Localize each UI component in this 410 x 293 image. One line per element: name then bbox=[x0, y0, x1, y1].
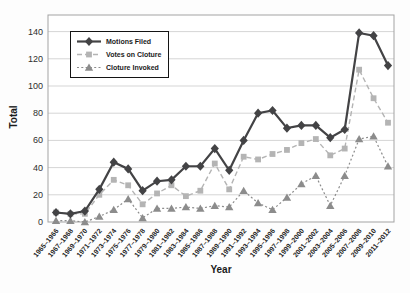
svg-text:120: 120 bbox=[28, 54, 43, 64]
square-marker-icon bbox=[76, 49, 102, 60]
legend: Motions Filed Votes on Cloture Cloture I… bbox=[70, 31, 169, 78]
svg-text:0: 0 bbox=[38, 217, 43, 227]
svg-text:60: 60 bbox=[33, 135, 43, 145]
svg-text:100: 100 bbox=[28, 81, 43, 91]
diamond-marker-icon bbox=[76, 36, 102, 47]
legend-item-votes-on-cloture: Votes on Cloture bbox=[76, 49, 161, 60]
x-axis-title: Year bbox=[48, 264, 394, 275]
svg-text:140: 140 bbox=[28, 27, 43, 37]
legend-item-motions-filed: Motions Filed bbox=[76, 36, 161, 47]
legend-label-cloture-invoked: Cloture Invoked bbox=[106, 64, 159, 71]
triangle-marker-icon bbox=[76, 62, 102, 73]
cloture-motions-chart: 0204060801001201401965–19661967–19681969… bbox=[0, 0, 410, 293]
plot-area: 0204060801001201401965–19661967–19681969… bbox=[0, 0, 410, 293]
legend-label-motions-filed: Motions Filed bbox=[106, 38, 151, 45]
svg-text:20: 20 bbox=[33, 190, 43, 200]
svg-text:80: 80 bbox=[33, 108, 43, 118]
svg-text:40: 40 bbox=[33, 163, 43, 173]
legend-label-votes-on-cloture: Votes on Cloture bbox=[106, 51, 161, 58]
legend-item-cloture-invoked: Cloture Invoked bbox=[76, 62, 161, 73]
y-axis-title: Total bbox=[8, 87, 20, 147]
